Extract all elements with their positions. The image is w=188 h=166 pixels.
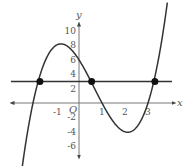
y-tick-label: 6 (70, 55, 76, 65)
cubic-curve (22, 3, 168, 166)
intersection-point (36, 78, 43, 85)
y-tick-label: 4 (70, 69, 76, 79)
x-tick-label: -1 (53, 107, 62, 117)
y-tick-label: 10 (65, 26, 77, 36)
chart: x y O -1123 108642-2-4-6 (0, 0, 188, 166)
y-axis-label: y (75, 9, 82, 20)
y-tick-label: -4 (67, 127, 76, 137)
x-tick-label: 1 (99, 107, 105, 117)
y-tick-label: 2 (70, 84, 76, 94)
x-tick-label: 2 (122, 107, 128, 117)
x-axis-label: x (177, 97, 183, 108)
intersection-point (88, 78, 95, 85)
y-tick-label: -6 (67, 141, 76, 151)
y-tick-label: -2 (67, 112, 76, 122)
intersection-point (151, 78, 158, 85)
